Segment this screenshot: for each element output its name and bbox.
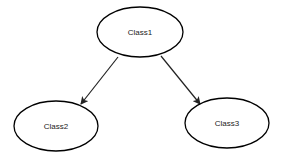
node-label: Class2 <box>44 122 69 131</box>
node-label: Class3 <box>215 119 240 128</box>
node-class2[interactable]: Class2 <box>14 101 98 151</box>
edge-class1-to-class2 <box>81 57 118 104</box>
edge-class1-to-class3 <box>161 56 200 104</box>
arrow-line <box>81 57 118 104</box>
class-diagram: Class1 Class2 Class3 <box>0 0 283 162</box>
node-class3[interactable]: Class3 <box>185 98 269 148</box>
node-class1[interactable]: Class1 <box>97 7 183 57</box>
arrow-line <box>161 56 200 104</box>
node-label: Class1 <box>128 28 153 37</box>
